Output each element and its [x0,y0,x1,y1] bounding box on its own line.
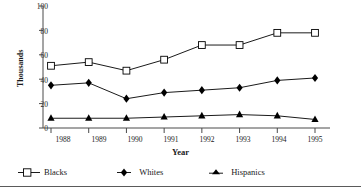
series-hispanics [47,111,318,122]
data-point-marker [123,95,129,103]
filled-diamond-marker-icon [113,168,135,177]
data-point-marker [312,29,319,36]
data-point-marker [85,114,92,121]
filled-triangle-marker-icon [205,168,227,177]
plot-area [0,0,361,191]
legend-label-whites: Whites [139,167,163,177]
data-point-marker [312,74,318,82]
legend-item-whites[interactable]: Whites [113,167,163,177]
bottom-divider [0,186,361,187]
data-point-marker [161,89,167,97]
data-point-marker [47,114,54,121]
data-point-marker [198,42,205,49]
legend-label-hispanics: Hispanics [231,167,265,177]
data-point-marker [48,62,55,69]
data-point-marker [236,42,243,49]
data-point-marker [85,59,92,66]
series-blacks [48,29,319,74]
data-point-marker [199,86,205,94]
legend-item-hispanics[interactable]: Hispanics [205,167,265,177]
open-square-marker-icon [18,168,40,177]
series-whites [48,74,318,103]
data-point-marker [274,29,281,36]
data-point-marker [123,67,130,74]
chart-legend: Blacks Whites Hispanics [18,165,348,179]
data-point-marker [161,113,168,120]
data-point-marker [311,115,318,122]
data-point-marker [86,79,92,87]
data-point-marker [48,81,54,89]
legend-label-blacks: Blacks [44,167,67,177]
line-chart: Thousands 100 80 60 40 20 0 1988 1989 19… [0,0,361,191]
data-point-marker [236,111,243,118]
data-point-marker [274,76,280,84]
data-point-marker [161,56,168,63]
legend-item-blacks[interactable]: Blacks [18,167,67,177]
data-point-marker [236,84,242,92]
data-point-marker [198,112,205,119]
data-point-marker [274,112,281,119]
data-point-marker [123,114,130,121]
